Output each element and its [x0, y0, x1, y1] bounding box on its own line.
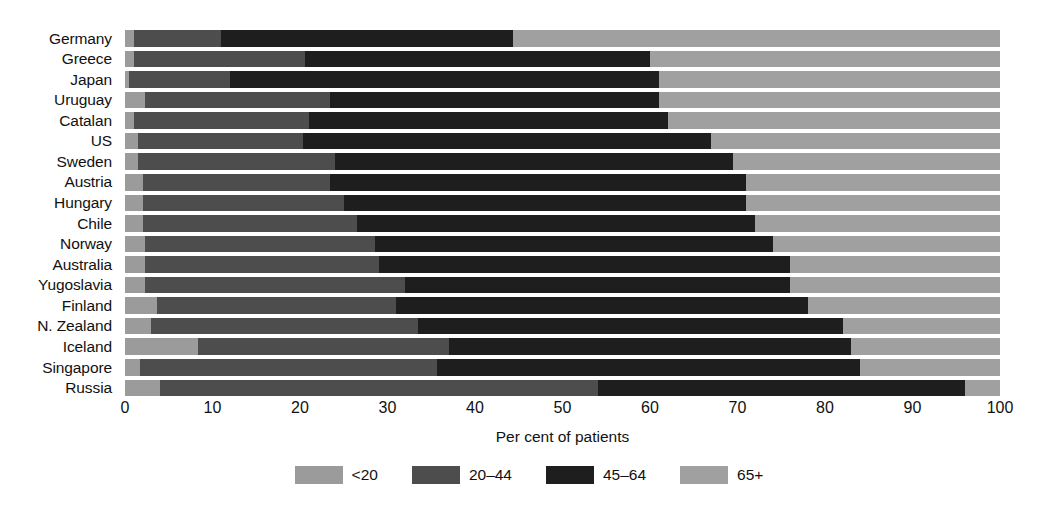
- bar-segment: [125, 277, 145, 294]
- bar-row: [125, 49, 1000, 70]
- bar-segment: [134, 112, 309, 129]
- bar-segment: [134, 51, 306, 68]
- bar-row: [125, 90, 1000, 111]
- stacked-bar: [125, 71, 1000, 88]
- y-axis-label: Hungary: [0, 193, 118, 214]
- y-axis-label: Singapore: [0, 357, 118, 378]
- bar-segment: [746, 195, 1000, 212]
- bar-segment: [418, 318, 842, 335]
- y-axis-label: Uruguay: [0, 90, 118, 111]
- bar-segment: [157, 297, 396, 314]
- stacked-bar: [125, 338, 1000, 355]
- chart-legend: <2020–4445–6465+: [0, 466, 1058, 484]
- bar-segment: [125, 380, 160, 397]
- stacked-bar: [125, 359, 1000, 376]
- bar-segment: [733, 153, 1000, 170]
- bar-segment: [513, 30, 1000, 47]
- stacked-bar: [125, 297, 1000, 314]
- bar-segment: [125, 51, 134, 68]
- bar-segment: [138, 133, 303, 150]
- bar-segment: [125, 338, 198, 355]
- bar-segment: [129, 71, 230, 88]
- bar-row: [125, 357, 1000, 378]
- bar-segment: [449, 338, 852, 355]
- x-axis-tick-label: 30: [379, 400, 397, 416]
- bar-row: [125, 151, 1000, 172]
- stacked-bar: [125, 277, 1000, 294]
- bar-segment: [668, 112, 1001, 129]
- stacked-bar: [125, 174, 1000, 191]
- bar-segment: [305, 51, 650, 68]
- stacked-bar: [125, 215, 1000, 232]
- bar-segment: [145, 256, 379, 273]
- y-axis-label: Sweden: [0, 151, 118, 172]
- bar-row: [125, 234, 1000, 255]
- stacked-bar: [125, 380, 1000, 397]
- y-axis-category-labels: GermanyGreeceJapanUruguayCatalanUSSweden…: [0, 28, 118, 398]
- x-axis-tick-label: 10: [204, 400, 222, 416]
- bar-segment: [860, 359, 1000, 376]
- legend-swatch: [412, 466, 460, 484]
- bar-segment: [659, 71, 1000, 88]
- bar-row: [125, 336, 1000, 357]
- bar-segment: [711, 133, 1000, 150]
- bar-segment: [330, 174, 747, 191]
- bar-row: [125, 131, 1000, 152]
- x-axis-title: Per cent of patients: [125, 428, 1000, 446]
- bar-segment: [125, 236, 145, 253]
- bar-segment: [790, 256, 1000, 273]
- y-axis-label: Catalan: [0, 110, 118, 131]
- legend-swatch: [295, 466, 343, 484]
- stacked-bar: [125, 153, 1000, 170]
- legend-item: <20: [295, 466, 378, 484]
- bar-segment: [143, 215, 357, 232]
- bar-segment: [851, 338, 1000, 355]
- bar-segment: [125, 318, 151, 335]
- bar-row: [125, 275, 1000, 296]
- bar-segment: [230, 71, 659, 88]
- bar-segment: [746, 174, 1000, 191]
- y-axis-label: N. Zealand: [0, 316, 118, 337]
- stacked-bar: [125, 236, 1000, 253]
- y-axis-label: Chile: [0, 213, 118, 234]
- stacked-bar: [125, 51, 1000, 68]
- y-axis-label: Austria: [0, 172, 118, 193]
- x-axis-tick-label: 60: [641, 400, 659, 416]
- legend-label: 45–64: [603, 467, 646, 483]
- bar-segment: [125, 215, 143, 232]
- bar-segment: [143, 174, 330, 191]
- bar-segment: [125, 133, 138, 150]
- legend-item: 45–64: [546, 466, 646, 484]
- bar-row: [125, 172, 1000, 193]
- bar-segment: [755, 215, 1000, 232]
- bar-segment: [357, 215, 755, 232]
- bar-row: [125, 378, 1000, 399]
- bar-segment: [375, 236, 772, 253]
- bar-segment: [160, 380, 598, 397]
- chart-root: GermanyGreeceJapanUruguayCatalanUSSweden…: [0, 0, 1058, 525]
- legend-swatch: [680, 466, 728, 484]
- bar-segment: [344, 195, 747, 212]
- stacked-bar: [125, 256, 1000, 273]
- x-axis-tick-label: 100: [987, 400, 1014, 416]
- bar-row: [125, 110, 1000, 131]
- bar-segment: [138, 153, 335, 170]
- legend-label: <20: [352, 467, 378, 483]
- legend-item: 20–44: [412, 466, 512, 484]
- y-axis-label: Greece: [0, 49, 118, 70]
- bar-segment: [303, 133, 712, 150]
- x-axis-tick-label: 20: [291, 400, 309, 416]
- legend-swatch: [546, 466, 594, 484]
- bar-segment: [405, 277, 790, 294]
- plot-area: [125, 28, 1000, 398]
- y-axis-label: US: [0, 131, 118, 152]
- bar-rows: [125, 28, 1000, 398]
- x-axis-tick-label: 40: [466, 400, 484, 416]
- bar-row: [125, 28, 1000, 49]
- bar-segment: [843, 318, 1001, 335]
- bar-segment: [125, 112, 134, 129]
- bar-segment: [309, 112, 668, 129]
- bar-segment: [965, 380, 1000, 397]
- bar-segment: [125, 174, 143, 191]
- x-axis-ticks: 0102030405060708090100: [125, 400, 1000, 426]
